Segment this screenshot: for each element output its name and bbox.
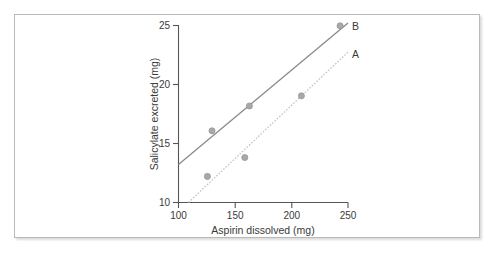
x-tick-label-250: 250 (340, 210, 357, 221)
y-tick-label-25: 25 (159, 20, 171, 31)
x-tick-labels: 100 150 200 250 (170, 210, 357, 221)
series-label-a: A (352, 48, 359, 60)
series-a-fit-line (188, 52, 348, 202)
x-axis-title: Aspirin dissolved (mg) (211, 224, 314, 236)
data-point (242, 154, 248, 160)
data-point (209, 128, 215, 134)
y-tick-labels: 25 20 15 10 (159, 20, 171, 208)
x-tick-label-100: 100 (170, 210, 187, 221)
x-tick-marks (179, 203, 349, 209)
data-point (337, 23, 343, 29)
scatter-plot: 25 20 15 10 100 150 200 250 Aspirin diss… (0, 0, 496, 255)
y-tick-label-15: 15 (159, 138, 171, 149)
y-tick-label-20: 20 (159, 79, 171, 90)
y-axis-title: Salicylate excreted (mg) (148, 58, 160, 171)
y-tick-label-10: 10 (159, 197, 171, 208)
series-a-markers (204, 93, 304, 180)
x-tick-label-200: 200 (283, 210, 300, 221)
series-b-fit-line (179, 23, 349, 165)
series-b-markers (209, 23, 343, 134)
y-tick-marks (173, 26, 179, 203)
series-label-b: B (352, 20, 359, 32)
data-point (246, 103, 252, 109)
figure-root: 25 20 15 10 100 150 200 250 Aspirin diss… (0, 0, 496, 255)
x-tick-label-150: 150 (227, 210, 244, 221)
data-point (204, 173, 210, 179)
data-point (298, 93, 304, 99)
